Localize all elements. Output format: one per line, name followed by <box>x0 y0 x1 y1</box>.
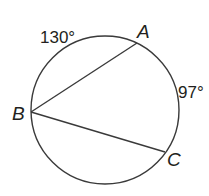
point-c-label: C <box>167 149 181 170</box>
arc-ab-measure: 130° <box>40 28 75 47</box>
chord-bc <box>31 112 165 152</box>
point-a-label: A <box>136 21 150 42</box>
arc-ac-measure: 97° <box>178 83 204 102</box>
chord-ba <box>31 43 137 112</box>
circle <box>31 36 179 184</box>
point-b-label: B <box>12 103 25 124</box>
circle-diagram: 130° 97° A B C <box>0 0 209 196</box>
